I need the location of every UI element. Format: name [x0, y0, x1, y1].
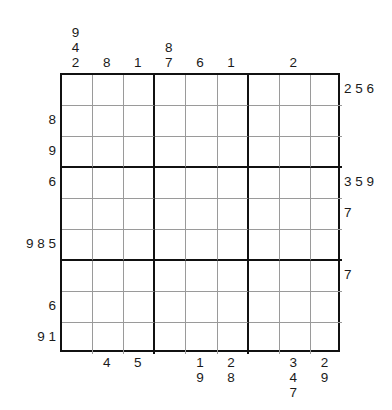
sudoku-cell-r8c3[interactable]: [124, 292, 155, 323]
sudoku-cell-r4c8[interactable]: [280, 168, 311, 199]
sudoku-cell-r4c2[interactable]: [93, 168, 124, 199]
sudoku-cell-r5c5[interactable]: [186, 199, 217, 230]
sudoku-cell-r3c7[interactable]: [249, 137, 280, 168]
sudoku-cell-r7c7[interactable]: [249, 261, 280, 292]
sudoku-cell-r4c9[interactable]: [311, 168, 342, 199]
sudoku-cell-r8c8[interactable]: [280, 292, 311, 323]
sudoku-cell-r7c8[interactable]: [280, 261, 311, 292]
sudoku-cell-r2c3[interactable]: [124, 106, 155, 137]
sudoku-cell-r9c7[interactable]: [249, 323, 280, 354]
sudoku-cell-r8c2[interactable]: [93, 292, 124, 323]
sudoku-cell-r3c3[interactable]: [124, 137, 155, 168]
sudoku-cell-r6c4[interactable]: [155, 230, 186, 261]
cell-value: [93, 261, 123, 291]
sudoku-cell-r7c9[interactable]: [311, 261, 342, 292]
sudoku-cell-r3c5[interactable]: [186, 137, 217, 168]
cell-value: [124, 168, 153, 198]
sudoku-cell-r2c1[interactable]: [62, 106, 93, 137]
sudoku-cell-r4c3[interactable]: [124, 168, 155, 199]
cell-value: [218, 230, 247, 259]
sudoku-cell-r4c4[interactable]: [155, 168, 186, 199]
sudoku-cell-r8c7[interactable]: [249, 292, 280, 323]
sudoku-cell-r1c7[interactable]: [249, 75, 280, 106]
sudoku-cell-r9c2[interactable]: [93, 323, 124, 354]
sudoku-cell-r2c7[interactable]: [249, 106, 280, 137]
sudoku-cell-r7c6[interactable]: [218, 261, 249, 292]
sudoku-cell-r2c9[interactable]: [311, 106, 342, 137]
sudoku-cell-r6c7[interactable]: [249, 230, 280, 261]
cell-value: [62, 261, 92, 291]
sudoku-cell-r7c2[interactable]: [93, 261, 124, 292]
sudoku-cell-r9c4[interactable]: [155, 323, 186, 354]
sudoku-cell-r5c4[interactable]: [155, 199, 186, 230]
sudoku-cell-r2c5[interactable]: [186, 106, 217, 137]
sudoku-cell-r7c4[interactable]: [155, 261, 186, 292]
sudoku-cell-r2c2[interactable]: [93, 106, 124, 137]
left-clue-row-8: 6: [4, 298, 60, 313]
sudoku-cell-r2c8[interactable]: [280, 106, 311, 137]
sudoku-cell-r1c1[interactable]: [62, 75, 93, 106]
sudoku-cell-r5c8[interactable]: [280, 199, 311, 230]
sudoku-cell-r9c5[interactable]: [186, 323, 217, 354]
sudoku-cell-r3c1[interactable]: [62, 137, 93, 168]
sudoku-cell-r9c9[interactable]: [311, 323, 342, 354]
sudoku-cell-r4c5[interactable]: [186, 168, 217, 199]
bottom-clue-column-2: 4: [91, 355, 122, 370]
sudoku-cell-r2c6[interactable]: [218, 106, 249, 137]
sudoku-cell-r7c1[interactable]: [62, 261, 93, 292]
sudoku-cell-r1c5[interactable]: [186, 75, 217, 106]
sudoku-cell-r4c1[interactable]: [62, 168, 93, 199]
sudoku-cell-r1c8[interactable]: [280, 75, 311, 106]
sudoku-cell-r4c6[interactable]: [218, 168, 249, 199]
sudoku-cell-r2c4[interactable]: [155, 106, 186, 137]
cell-value: [280, 292, 310, 322]
sudoku-cell-r5c2[interactable]: [93, 199, 124, 230]
sudoku-cell-r5c9[interactable]: [311, 199, 342, 230]
sudoku-cell-r1c2[interactable]: [93, 75, 124, 106]
sudoku-cell-r3c4[interactable]: [155, 137, 186, 168]
sudoku-cell-r7c5[interactable]: [186, 261, 217, 292]
sudoku-cell-r1c4[interactable]: [155, 75, 186, 106]
sudoku-cell-r4c7[interactable]: [249, 168, 280, 199]
sudoku-cell-r6c5[interactable]: [186, 230, 217, 261]
cell-value: [155, 230, 185, 259]
sudoku-cell-r9c3[interactable]: [124, 323, 155, 354]
sudoku-cell-r5c6[interactable]: [218, 199, 249, 230]
sudoku-cell-r6c9[interactable]: [311, 230, 342, 261]
sudoku-cell-r5c3[interactable]: [124, 199, 155, 230]
sudoku-grid[interactable]: [60, 73, 340, 352]
sudoku-cell-r8c6[interactable]: [218, 292, 249, 323]
sudoku-cell-r8c5[interactable]: [186, 292, 217, 323]
cell-value: [249, 292, 279, 322]
sudoku-cell-r6c2[interactable]: [93, 230, 124, 261]
sudoku-cell-r5c1[interactable]: [62, 199, 93, 230]
sudoku-cell-r8c4[interactable]: [155, 292, 186, 323]
sudoku-cell-r1c9[interactable]: [311, 75, 342, 106]
sudoku-cell-r9c6[interactable]: [218, 323, 249, 354]
cell-value: [186, 292, 216, 322]
sudoku-cell-r3c8[interactable]: [280, 137, 311, 168]
sudoku-cell-r9c8[interactable]: [280, 323, 311, 354]
sudoku-cell-r7c3[interactable]: [124, 261, 155, 292]
sudoku-cell-r6c6[interactable]: [218, 230, 249, 261]
clue-digit: 6: [184, 55, 215, 70]
sudoku-cell-r6c1[interactable]: [62, 230, 93, 261]
sudoku-cell-r9c1[interactable]: [62, 323, 93, 354]
cell-value: [311, 199, 342, 229]
sudoku-cell-r6c8[interactable]: [280, 230, 311, 261]
sudoku-cell-r3c9[interactable]: [311, 137, 342, 168]
sudoku-cell-r8c9[interactable]: [311, 292, 342, 323]
top-clue-column-4: 87: [153, 40, 184, 70]
left-clue-row-6: 9 8 5: [4, 236, 60, 251]
sudoku-cell-r3c6[interactable]: [218, 137, 249, 168]
sudoku-cell-r6c3[interactable]: [124, 230, 155, 261]
top-clue-column-2: 8: [91, 55, 122, 70]
sudoku-cell-r1c3[interactable]: [124, 75, 155, 106]
sudoku-cell-r5c7[interactable]: [249, 199, 280, 230]
sudoku-cell-r1c6[interactable]: [218, 75, 249, 106]
sudoku-cell-r3c2[interactable]: [93, 137, 124, 168]
cell-value: [186, 75, 216, 105]
clue-digit: 4: [278, 370, 309, 385]
sudoku-cell-r8c1[interactable]: [62, 292, 93, 323]
top-clue-column-6: 1: [216, 55, 247, 70]
